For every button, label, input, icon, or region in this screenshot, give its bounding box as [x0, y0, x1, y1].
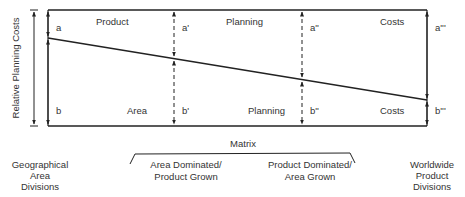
lower-word-planning: Planning	[248, 105, 285, 116]
marker-b-double-prime: b''	[310, 105, 319, 116]
marker-b: b	[56, 105, 61, 116]
organization-planning-cost-diagram: Relative Planning Costs Product Planning…	[0, 0, 465, 197]
matrix-right-line1: Product Dominated/	[255, 159, 365, 170]
matrix-left-line2: Product Grown	[136, 171, 236, 182]
marker-a-double-prime: a''	[310, 22, 319, 33]
left-endpoint-line3: Divisions	[8, 181, 72, 192]
right-endpoint-line2: Product	[400, 170, 464, 181]
left-endpoint-line2: Area	[8, 170, 72, 181]
right-endpoint-line3: Divisions	[400, 181, 464, 192]
marker-a-prime: a'	[182, 22, 189, 33]
right-endpoint-line1: Worldwide	[400, 159, 464, 170]
matrix-right-line2: Area Grown	[255, 171, 365, 182]
upper-word-costs: Costs	[380, 16, 404, 27]
y-axis-label: Relative Planning Costs	[10, 18, 21, 119]
left-endpoint-line1: Geographical	[8, 159, 72, 170]
matrix-left-line1: Area Dominated/	[136, 159, 236, 170]
marker-b-triple-prime: b'''	[435, 105, 446, 116]
lower-word-costs: Costs	[380, 105, 404, 116]
y-axis-arrow	[30, 10, 38, 126]
marker-b-prime: b'	[182, 105, 189, 116]
marker-a-triple-prime: a'''	[435, 22, 446, 33]
cost-divider-line	[48, 38, 427, 100]
frame	[48, 10, 427, 126]
upper-word-product: Product	[96, 16, 129, 27]
lower-word-area: Area	[127, 105, 147, 116]
matrix-label: Matrix	[218, 138, 268, 149]
marker-a: a	[56, 22, 61, 33]
upper-word-planning: Planning	[226, 16, 263, 27]
